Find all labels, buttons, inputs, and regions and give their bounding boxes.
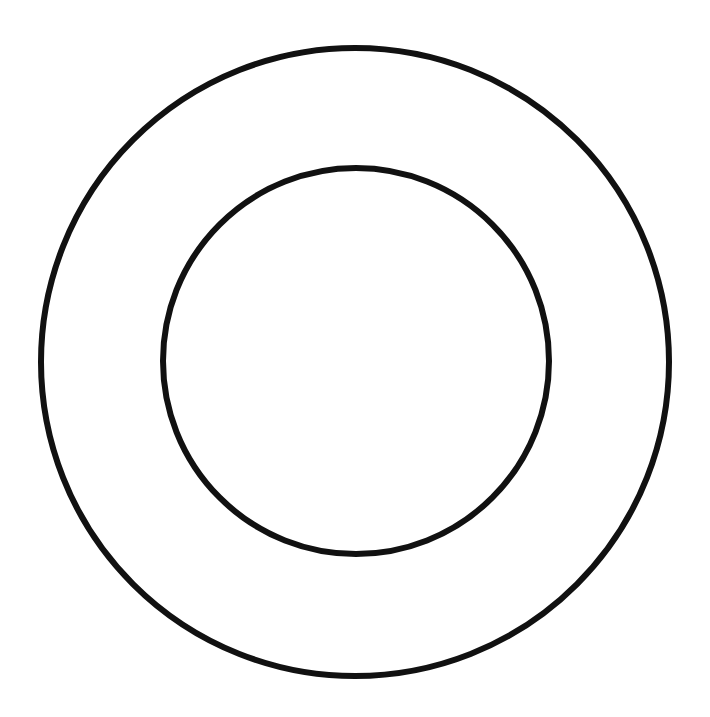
- concentric-circles-diagram: [0, 0, 710, 717]
- inner-circle: [163, 168, 549, 554]
- diagram-canvas: [0, 0, 710, 717]
- outer-circle: [41, 48, 669, 676]
